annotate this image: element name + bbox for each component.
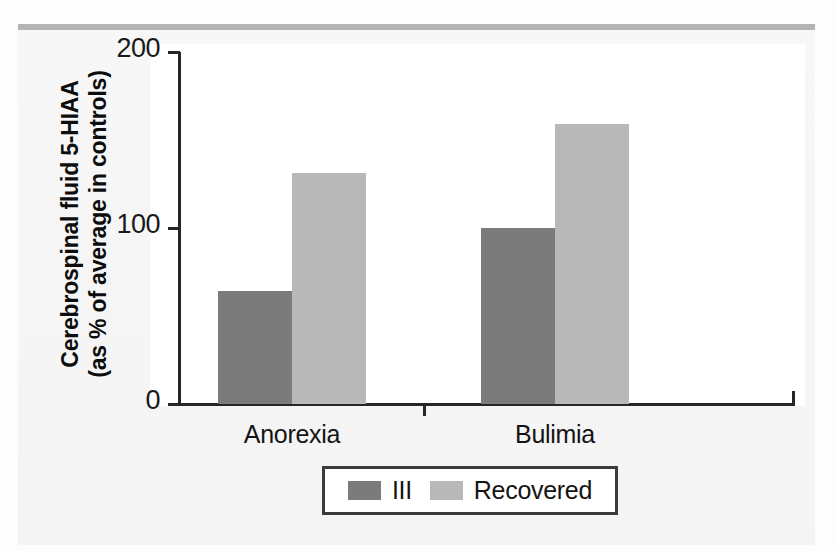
x-axis-end-tick <box>792 391 795 404</box>
legend-label-iii: III <box>392 478 412 503</box>
chart-legend: IIIRecovered <box>322 466 618 515</box>
bar-anorexia-iii <box>218 291 292 404</box>
bar-anorexia-recovered <box>292 173 366 404</box>
bars-layer <box>0 0 836 404</box>
legend-item-iii: III <box>348 478 412 503</box>
legend-swatch-iii <box>348 481 381 500</box>
bar-bulimia-recovered <box>555 124 629 404</box>
bar-bulimia-iii <box>481 228 555 404</box>
legend-swatch-recovered <box>430 481 463 500</box>
x-axis-group-separator-tick <box>423 403 426 416</box>
legend-item-recovered: Recovered <box>430 478 592 503</box>
figure-container: Cerebrospinal fluid 5-HIAA (as % of aver… <box>0 0 836 550</box>
x-axis-label-anorexia: Anorexia <box>182 420 402 449</box>
legend-label-recovered: Recovered <box>474 478 592 503</box>
x-axis-label-bulimia: Bulimia <box>445 420 665 449</box>
